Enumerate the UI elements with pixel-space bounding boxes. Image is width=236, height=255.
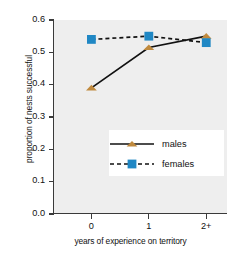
chart-figure: proportion of nests successful years of …: [0, 0, 236, 255]
y-tick-label: 0.1: [32, 175, 45, 185]
data-point-females-0: [87, 35, 96, 44]
x-tick-label: 2+: [186, 221, 226, 231]
x-tick-label: 1: [129, 221, 169, 231]
plot-area: 0.00.10.20.30.40.50.6 012+ malesfemales: [53, 20, 227, 214]
data-point-females-2+: [202, 38, 211, 47]
x-tick-label: 0: [71, 221, 111, 231]
y-tick-label: 0.3: [32, 111, 45, 121]
series-layer: [54, 20, 228, 214]
plot-inner: 0.00.10.20.30.40.50.6 012+ malesfemales: [54, 20, 227, 213]
data-point-females-1: [144, 32, 153, 41]
y-tick-label: 0.5: [32, 46, 45, 56]
legend-label-males: males: [155, 139, 187, 149]
y-tick-label: 0.2: [32, 143, 45, 153]
legend-marker-females: [128, 159, 137, 168]
y-tick-label: 0.4: [32, 78, 45, 88]
legend-item-females[interactable]: females: [109, 154, 224, 173]
data-point-males-2+: [201, 33, 212, 39]
chart-legend: malesfemales: [109, 130, 224, 176]
series-line-males: [91, 36, 206, 88]
x-tick-mark: [91, 214, 92, 219]
y-tick-label: 0.0: [32, 208, 45, 218]
legend-label-females: females: [155, 159, 194, 169]
legend-key-females: [109, 156, 155, 172]
x-tick-mark: [206, 214, 207, 219]
x-tick-mark: [148, 214, 149, 219]
legend-key-males: [109, 136, 155, 152]
y-tick-label: 0.6: [32, 14, 45, 24]
legend-item-males[interactable]: males: [109, 134, 224, 153]
x-axis-title: years of experience on territory: [33, 236, 228, 246]
